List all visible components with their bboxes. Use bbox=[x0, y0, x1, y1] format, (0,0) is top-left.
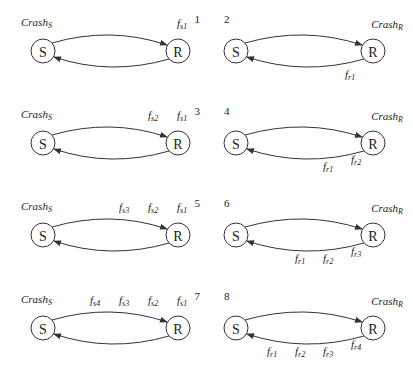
node-sender-label: S bbox=[232, 229, 240, 244]
failure-label: fs3 bbox=[119, 201, 129, 215]
failure-label: fr2 bbox=[295, 345, 305, 359]
node-receiver-label: R bbox=[368, 137, 378, 152]
failure-label: fs2 bbox=[148, 294, 158, 308]
node-sender-label: S bbox=[232, 45, 240, 60]
crash-label-sender: CrashS bbox=[21, 16, 52, 30]
failure-label: fr3 bbox=[351, 245, 361, 259]
edge-r-to-s bbox=[247, 57, 364, 67]
failure-label: fs4 bbox=[90, 294, 100, 308]
failure-label: fs1 bbox=[177, 17, 187, 31]
edge-r-to-s bbox=[54, 149, 169, 159]
node-sender-label: S bbox=[232, 137, 240, 152]
edge-s-to-r bbox=[245, 127, 362, 137]
failure-label: fs1 bbox=[177, 201, 187, 215]
node-receiver-label: R bbox=[173, 137, 183, 152]
panel-number: 5 bbox=[195, 197, 201, 209]
crash-label-sender: CrashS bbox=[21, 108, 52, 122]
panel-3: SR3CrashSfs2fs1 bbox=[21, 105, 201, 159]
node-sender-label: S bbox=[232, 322, 240, 337]
node-receiver-label: R bbox=[368, 229, 378, 244]
node-receiver-label: R bbox=[368, 45, 378, 60]
panel-number: 7 bbox=[195, 290, 201, 302]
failure-label: fr1 bbox=[345, 68, 355, 82]
failure-label: fs3 bbox=[119, 294, 129, 308]
edge-r-to-s bbox=[247, 334, 364, 344]
edge-r-to-s bbox=[247, 149, 364, 159]
node-receiver-label: R bbox=[368, 322, 378, 337]
panel-5: SR5CrashSfs3fs2fs1 bbox=[21, 197, 201, 251]
failure-label: fr1 bbox=[267, 345, 277, 359]
failure-label: fr1 bbox=[323, 160, 333, 174]
edge-s-to-r bbox=[245, 312, 362, 322]
edge-r-to-s bbox=[247, 241, 364, 251]
panel-number: 2 bbox=[224, 13, 230, 25]
crash-label-receiver: CrashR bbox=[371, 110, 403, 124]
edge-s-to-r bbox=[245, 219, 362, 229]
crash-failure-diagrams: SR1CrashSfs1SR2CrashRfr1SR3CrashSfs2fs1S… bbox=[0, 0, 413, 375]
panel-6: SR6CrashRfr1fr2fr3 bbox=[224, 197, 403, 266]
edge-s-to-r bbox=[52, 35, 167, 45]
panel-2: SR2CrashRfr1 bbox=[224, 13, 403, 82]
failure-label: fr3 bbox=[323, 345, 333, 359]
panel-number: 1 bbox=[195, 13, 201, 25]
edge-r-to-s bbox=[54, 241, 169, 251]
node-sender-label: S bbox=[39, 137, 47, 152]
node-sender-label: S bbox=[39, 229, 47, 244]
edge-s-to-r bbox=[245, 35, 362, 45]
node-receiver-label: R bbox=[173, 229, 183, 244]
failure-label: fs2 bbox=[148, 109, 158, 123]
failure-label: fr1 bbox=[295, 252, 305, 266]
panel-4: SR4CrashRfr1fr2 bbox=[224, 105, 403, 174]
crash-label-receiver: CrashR bbox=[371, 18, 403, 32]
failure-label: fs1 bbox=[177, 109, 187, 123]
edge-r-to-s bbox=[54, 334, 169, 344]
panel-8: SR8CrashRfr1fr2fr3fr4 bbox=[224, 290, 403, 359]
crash-label-sender: CrashS bbox=[21, 293, 52, 307]
panel-number: 6 bbox=[224, 197, 230, 209]
crash-label-receiver: CrashR bbox=[371, 295, 403, 309]
node-sender-label: S bbox=[39, 322, 47, 337]
failure-label: fr2 bbox=[323, 252, 333, 266]
failure-label: fr4 bbox=[351, 338, 361, 352]
panel-number: 3 bbox=[195, 105, 201, 117]
node-receiver-label: R bbox=[173, 45, 183, 60]
crash-label-receiver: CrashR bbox=[371, 202, 403, 216]
panel-number: 4 bbox=[224, 105, 230, 117]
failure-label: fs2 bbox=[148, 201, 158, 215]
crash-label-sender: CrashS bbox=[21, 200, 52, 214]
node-sender-label: S bbox=[39, 45, 47, 60]
edge-s-to-r bbox=[52, 219, 167, 229]
panel-1: SR1CrashSfs1 bbox=[21, 13, 200, 67]
panel-7: SR7CrashSfs4fs3fs2fs1 bbox=[21, 290, 201, 344]
edge-s-to-r bbox=[52, 312, 167, 322]
node-receiver-label: R bbox=[173, 322, 183, 337]
panel-number: 8 bbox=[224, 290, 230, 302]
edge-s-to-r bbox=[52, 127, 167, 137]
failure-label: fr2 bbox=[351, 153, 361, 167]
edge-r-to-s bbox=[54, 57, 169, 67]
failure-label: fs1 bbox=[177, 294, 187, 308]
